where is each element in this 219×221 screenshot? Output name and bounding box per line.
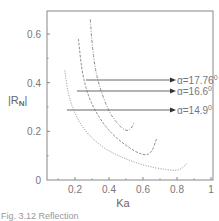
x-tick-label: 0.6 (136, 184, 150, 195)
figure-caption: Fig. 3.12 Reflection (1, 211, 79, 221)
y-tick-label: 0.2 (27, 126, 41, 137)
y-tick-label: 0 (35, 175, 41, 186)
y-tick-label: 0.4 (27, 78, 41, 89)
x-axis-label: Ka (116, 197, 130, 209)
legend-label: α=14.90 (177, 104, 212, 116)
y-tick-label: 0.6 (27, 29, 41, 40)
x-tick-label: 0.2 (68, 184, 82, 195)
y-axis-label: |RN| (8, 94, 27, 108)
arrowhead-icon (170, 108, 176, 113)
series-line (65, 71, 187, 171)
x-tick-label: 1 (208, 184, 214, 195)
chart: 0.20.40.60.8100.20.40.6 α=17.760α=16.60α… (0, 0, 219, 221)
x-tick-label: 0.8 (170, 184, 184, 195)
x-tick-label: 0.4 (102, 184, 116, 195)
data-series (65, 19, 187, 170)
arrowhead-icon (170, 89, 176, 94)
legend-arrows: α=17.760α=16.60α=14.90 (67, 74, 218, 116)
arrowhead-icon (170, 78, 176, 83)
series-line (78, 39, 156, 155)
legend-label: α=16.60 (177, 85, 212, 97)
